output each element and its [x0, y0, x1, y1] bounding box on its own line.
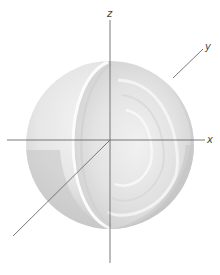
sphere-diagram: z y x — [0, 0, 220, 275]
z-axis-label: z — [106, 8, 113, 19]
y-axis-label: y — [204, 41, 212, 52]
x-axis-label: x — [206, 134, 213, 145]
y-axis-back — [173, 49, 203, 78]
